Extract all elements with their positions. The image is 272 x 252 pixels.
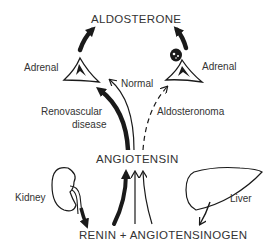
liver-to-angiotensinogen-arrow xyxy=(200,202,210,224)
renin-to-angiotensin-bold-arrow xyxy=(114,174,126,224)
normal-pathway-label: Normal xyxy=(121,79,153,89)
aldosteronoma-label: Aldosteronoma xyxy=(157,107,224,117)
left-adrenal-gland-icon xyxy=(64,58,99,82)
aldosterone-label: ALDOSTERONE xyxy=(91,14,181,26)
right-adrenal-to-aldosterone-arrow xyxy=(177,30,186,48)
diagram-graphics xyxy=(0,0,272,252)
angiotensinogen-to-angiotensin-arrow xyxy=(143,172,152,224)
left-adrenal-to-aldosterone-arrow xyxy=(80,30,92,50)
kidney-icon xyxy=(52,168,82,214)
liver-label: Liver xyxy=(230,194,252,204)
aldosteronoma-pathway-arrow xyxy=(143,87,167,150)
kidney-to-renin-arrow xyxy=(81,208,86,224)
diagram-root: ALDOSTERONE Adrenal Adrenal Normal Renov… xyxy=(0,0,272,252)
adrenal-right-label: Adrenal xyxy=(202,62,236,72)
renin-angiotensinogen-label: RENIN + ANGIOTENSINOGEN xyxy=(79,230,247,242)
angiotensin-label: ANGIOTENSIN xyxy=(96,154,179,166)
right-adrenal-gland-with-tumor-icon xyxy=(166,60,202,82)
renovascular-label-line1: Renovascular xyxy=(41,107,102,117)
renovascular-label-line2: disease xyxy=(72,120,106,130)
adrenal-left-label: Adrenal xyxy=(24,63,58,73)
kidney-label: Kidney xyxy=(15,193,46,203)
aldosteronoma-tumor-icon xyxy=(170,49,182,62)
